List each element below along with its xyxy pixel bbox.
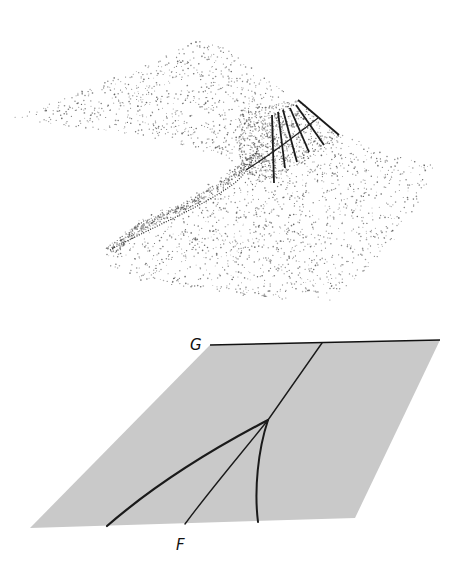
ruled-line-1 [272, 115, 274, 183]
cusp-surface-panel [15, 41, 433, 300]
catastrophe-figure: G F [0, 0, 460, 568]
label-G: G [190, 336, 202, 354]
control-plane-parallelogram [30, 340, 440, 528]
control-plane-panel: G F [30, 336, 440, 554]
label-F: F [176, 536, 185, 554]
stippled-surface [15, 41, 433, 300]
